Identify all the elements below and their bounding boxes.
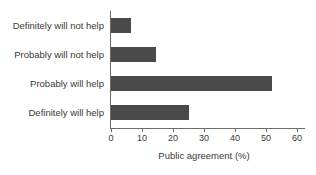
x-tick-label: 0 xyxy=(108,133,113,144)
x-tick-mark xyxy=(111,128,112,132)
category-label: Probably will not help xyxy=(14,47,104,62)
x-tick-label: 30 xyxy=(199,133,209,144)
bar xyxy=(111,47,156,62)
x-tick-mark xyxy=(173,128,174,132)
bar-row xyxy=(111,76,272,91)
category-axis-labels: Definitely will not helpProbably will no… xyxy=(0,11,104,128)
bar-row xyxy=(111,47,156,62)
x-tick-mark xyxy=(142,128,143,132)
bar-row xyxy=(111,105,189,120)
bar xyxy=(111,105,189,120)
bar xyxy=(111,76,272,91)
category-label: Definitely will not help xyxy=(13,18,104,33)
x-tick-label: 60 xyxy=(292,133,302,144)
x-tick-mark xyxy=(204,128,205,132)
x-tick-mark xyxy=(297,128,298,132)
category-label: Definitely will help xyxy=(28,105,104,120)
category-label: Probably will help xyxy=(30,76,104,91)
plot-area: 0102030405060 xyxy=(111,11,297,128)
bar-series xyxy=(111,11,297,128)
x-tick-label: 20 xyxy=(168,133,178,144)
x-tick-label: 10 xyxy=(137,133,147,144)
x-tick-mark xyxy=(235,128,236,132)
bar xyxy=(111,18,131,33)
bar-chart: Definitely will not helpProbably will no… xyxy=(0,0,316,175)
x-tick-label: 50 xyxy=(261,133,271,144)
bar-row xyxy=(111,18,131,33)
x-axis-ticks: 0102030405060 xyxy=(111,128,297,150)
x-axis-title: Public agreement (%) xyxy=(111,150,297,162)
x-tick-mark xyxy=(266,128,267,132)
x-tick-label: 40 xyxy=(230,133,240,144)
